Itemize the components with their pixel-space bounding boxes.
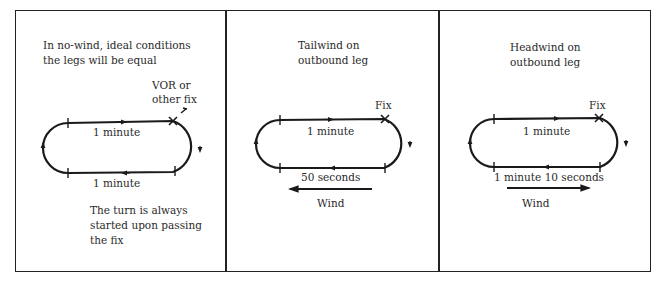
racetrack-no-wind [43,108,200,178]
racetrack-headwind [470,114,626,188]
racetrack-tailwind [256,115,410,189]
fix-pointer [181,108,187,113]
holding-pattern-drawings [0,0,662,286]
